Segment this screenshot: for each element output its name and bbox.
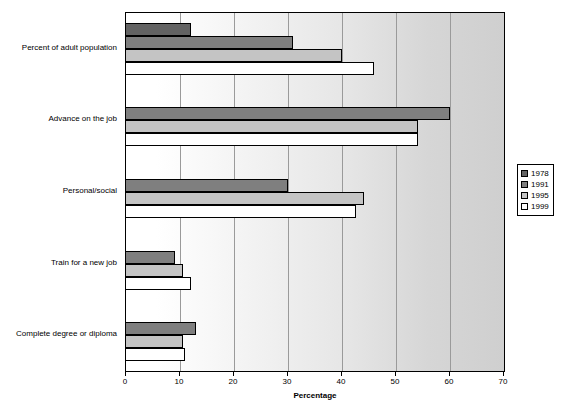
- x-tick: [395, 372, 396, 376]
- bar-row: [126, 166, 504, 179]
- bar-1991: [126, 179, 288, 192]
- bar-row: [126, 205, 504, 218]
- legend-swatch-icon: [521, 170, 528, 177]
- category-label: Percent of adult population: [22, 43, 117, 53]
- bar-1991: [126, 322, 196, 335]
- x-tick: [233, 372, 234, 376]
- bar-group: [126, 13, 504, 85]
- bar-row: [126, 94, 504, 107]
- bar-row: [126, 179, 504, 192]
- bar-1991: [126, 36, 293, 49]
- bar-1999: [126, 133, 418, 146]
- bar-row: [126, 107, 504, 120]
- x-tick-label: 40: [337, 377, 346, 386]
- category-label: Personal/social: [63, 186, 117, 196]
- bar-row: [126, 322, 504, 335]
- bar-row: [126, 277, 504, 290]
- bar-row: [126, 36, 504, 49]
- bar-row: [126, 348, 504, 361]
- category-label: Train for a new job: [51, 258, 117, 268]
- legend-label: 1995: [531, 191, 549, 200]
- x-tick-label: 10: [175, 377, 184, 386]
- bar-row: [126, 309, 504, 322]
- x-tick: [449, 372, 450, 376]
- x-tick-label: 20: [229, 377, 238, 386]
- x-tick-label: 30: [283, 377, 292, 386]
- x-tick: [179, 372, 180, 376]
- bar-row: [126, 264, 504, 277]
- bar-1995: [126, 120, 418, 133]
- legend-swatch-icon: [521, 181, 528, 188]
- legend-swatch-icon: [521, 192, 528, 199]
- gridline-70: [504, 13, 505, 371]
- bar-1978: [126, 23, 191, 36]
- bar-1991: [126, 107, 450, 120]
- x-tick-label: 70: [499, 377, 508, 386]
- bar-1995: [126, 192, 364, 205]
- bar-row: [126, 62, 504, 75]
- legend-swatch-icon: [521, 203, 528, 210]
- x-tick: [341, 372, 342, 376]
- x-tick: [287, 372, 288, 376]
- bar-1995: [126, 335, 183, 348]
- x-tick: [503, 372, 504, 376]
- legend-item-1991[interactable]: 1991: [521, 179, 549, 190]
- category-label: Complete degree or diploma: [16, 329, 117, 339]
- bar-1999: [126, 62, 374, 75]
- category-label: Advance on the job: [49, 114, 118, 124]
- bar-row: [126, 133, 504, 146]
- bar-group: [126, 299, 504, 371]
- legend-label: 1991: [531, 180, 549, 189]
- plot-area: [125, 12, 505, 372]
- legend-item-1978[interactable]: 1978: [521, 168, 549, 179]
- legend-label: 1999: [531, 202, 549, 211]
- legend-item-1999[interactable]: 1999: [521, 201, 549, 212]
- bar-row: [126, 335, 504, 348]
- bar-1999: [126, 348, 185, 361]
- legend-label: 1978: [531, 169, 549, 178]
- bar-1995: [126, 49, 342, 62]
- bar-groups: [126, 13, 504, 371]
- bar-group: [126, 228, 504, 300]
- legend-item-1995[interactable]: 1995: [521, 190, 549, 201]
- bar-1995: [126, 264, 183, 277]
- x-axis: Percentage 010203040506070: [125, 372, 505, 402]
- bar-row: [126, 238, 504, 251]
- bar-1991: [126, 251, 175, 264]
- bar-row: [126, 23, 504, 36]
- bar-row: [126, 49, 504, 62]
- x-tick: [125, 372, 126, 376]
- bar-row: [126, 251, 504, 264]
- x-axis-title: Percentage: [125, 391, 505, 400]
- x-tick-label: 50: [391, 377, 400, 386]
- chart-legend: 1978199119951999: [517, 164, 554, 216]
- bar-1999: [126, 205, 356, 218]
- bar-row: [126, 192, 504, 205]
- bar-group: [126, 85, 504, 157]
- x-tick-label: 0: [123, 377, 127, 386]
- bar-1999: [126, 277, 191, 290]
- category-axis-labels: Percent of adult populationAdvance on th…: [0, 12, 121, 372]
- bar-row: [126, 120, 504, 133]
- bar-chart: Percent of adult populationAdvance on th…: [0, 0, 572, 414]
- x-tick-label: 60: [445, 377, 454, 386]
- bar-group: [126, 156, 504, 228]
